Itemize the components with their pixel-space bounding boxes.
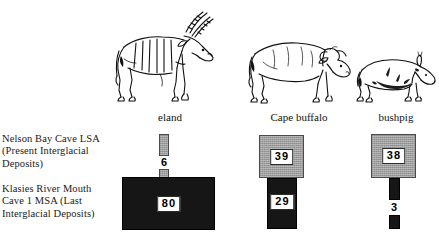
row-label-msa: Klasies River Mouth Cave 1 MSA (Last Int… [2, 183, 122, 220]
animal-label-eland: eland [104, 111, 236, 124]
value-eland-lsa: 6 [159, 156, 169, 168]
eland-illustration [104, 6, 236, 106]
bar-buffalo-lsa[interactable]: 39 [259, 135, 304, 178]
value-bushpig-lsa: 38 [382, 148, 406, 164]
animal-column-buffalo: Cape buffalo [243, 8, 355, 122]
animal-label-bushpig: bushpig [352, 111, 439, 124]
animal-column-bushpig: bushpig [352, 8, 439, 122]
value-buffalo-msa: 29 [270, 194, 294, 210]
cape-buffalo-illustration [243, 26, 355, 106]
bar-buffalo-msa[interactable]: 29 [267, 178, 297, 229]
proportional-area-chart: Nelson Bay Cave LSA (Present Interglacia… [0, 0, 439, 238]
value-buffalo-lsa: 39 [270, 149, 294, 165]
bar-eland-lsa[interactable] [159, 134, 169, 156]
bar-bushpig-lsa[interactable]: 38 [371, 134, 416, 178]
bar-bushpig-msa-lower[interactable] [389, 215, 400, 229]
value-bushpig-msa: 3 [389, 201, 399, 213]
animal-label-buffalo: Cape buffalo [243, 111, 355, 124]
bushpig-illustration [352, 48, 439, 106]
value-eland-msa: 80 [157, 196, 181, 212]
bar-eland-msa[interactable]: 80 [122, 177, 215, 230]
bar-bushpig-msa-upper[interactable] [389, 178, 400, 200]
animal-column-eland: eland [104, 8, 236, 122]
row-label-lsa: Nelson Bay Cave LSA (Present Interglacia… [2, 133, 122, 170]
